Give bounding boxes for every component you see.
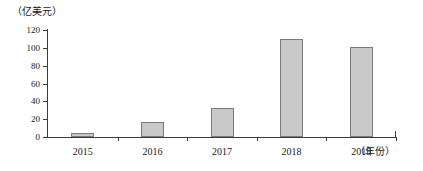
x-axis-tick (396, 137, 397, 141)
bar-2018 (280, 39, 303, 137)
x-axis-tick (187, 137, 188, 141)
x-axis-tick (326, 137, 327, 141)
bar-chart: （亿美元） 020406080100120 201520162017201820… (0, 0, 423, 171)
x-axis-line (47, 137, 396, 138)
y-axis-unit-label: （亿美元） (12, 6, 62, 18)
y-axis-tick-label: 60 (6, 80, 40, 89)
y-axis-tick-label: 100 (6, 44, 40, 53)
x-axis-label-2015: 2015 (53, 146, 113, 158)
x-axis-tick (257, 137, 258, 141)
y-axis-tick-label: 80 (6, 62, 40, 71)
bar-2015 (71, 133, 94, 137)
x-axis-label-2018: 2018 (262, 146, 322, 158)
y-axis-tick-label: 20 (6, 115, 40, 124)
bar-2016 (141, 122, 164, 137)
x-axis-tick (118, 137, 119, 141)
y-axis-tick-label: 120 (6, 26, 40, 35)
x-axis-label-2017: 2017 (192, 146, 252, 158)
y-axis-tick-label: 0 (6, 133, 40, 142)
y-axis-tick-label: 40 (6, 97, 40, 106)
x-axis-unit-label: （年份） (355, 146, 395, 158)
y-axis-tick (43, 137, 48, 138)
bar-2017 (211, 108, 234, 137)
bar-2019 (350, 47, 373, 137)
x-axis-label-2016: 2016 (122, 146, 182, 158)
plot-area (48, 30, 396, 137)
